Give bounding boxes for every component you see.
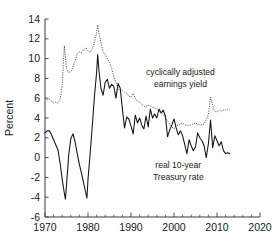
line-chart: -6-4-202468101214 1970198019902000201020… (0, 0, 278, 250)
annotation-line: Treasury rate (153, 172, 204, 182)
y-axis-title: Percent (3, 100, 15, 136)
y-tick-label: 8 (34, 72, 40, 84)
x-tick-label: 2000 (162, 221, 186, 233)
y-tick-label: -4 (31, 191, 40, 203)
x-tick-label: 1980 (76, 221, 100, 233)
y-tick-label: 4 (34, 112, 40, 124)
y-axis-tick-labels: -6-4-202468101214 (28, 13, 40, 223)
annotation-line: cyclically adjusted (146, 67, 215, 77)
x-tick-label: 1990 (119, 221, 143, 233)
x-tick-label: 2010 (205, 221, 229, 233)
y-tick-label: 12 (28, 32, 40, 44)
y-tick-label: 14 (28, 13, 40, 25)
y-tick-label: 6 (34, 92, 40, 104)
y-tick-label: 0 (34, 151, 40, 163)
annotations-group: cyclically adjustedearnings yieldreal 10… (146, 67, 215, 182)
real-treasury-rate-label: real 10-yearTreasury rate (153, 160, 204, 182)
y-tick-label: 10 (28, 52, 40, 64)
annotation-line: real 10-year (155, 160, 201, 170)
cape-earnings-yield-label: cyclically adjustedearnings yield (146, 67, 215, 89)
x-axis-tick-labels: 197019801990200020102020 (33, 221, 272, 233)
x-tick-label: 2020 (248, 221, 272, 233)
y-tick-label: -2 (31, 171, 40, 183)
annotation-line: earnings yield (154, 79, 207, 89)
chart-container: -6-4-202468101214 1970198019902000201020… (0, 0, 278, 250)
x-tick-label: 1970 (33, 221, 57, 233)
y-tick-label: 2 (34, 131, 40, 143)
